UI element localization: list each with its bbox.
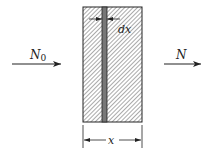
right-force-label: N (175, 48, 187, 62)
diagram: dx N0 N x (0, 0, 211, 157)
dx-label: dx (118, 23, 132, 36)
slab-hatch-fill (83, 7, 142, 122)
left-force-label: N0 (29, 48, 47, 63)
slab (83, 7, 142, 122)
thin-strip (102, 7, 107, 122)
left-force-subscript: 0 (41, 53, 47, 63)
dimension-label: x (108, 134, 115, 147)
